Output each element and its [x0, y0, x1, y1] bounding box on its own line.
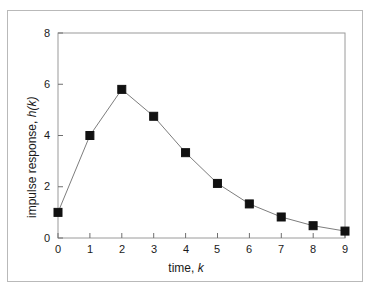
data-point	[118, 85, 126, 93]
data-point	[150, 112, 158, 120]
x-axis-title-text: time,	[168, 261, 194, 275]
data-point	[182, 149, 190, 157]
y-axis-title-variable: h(k)	[25, 97, 39, 118]
axes-rect	[58, 33, 345, 238]
data-point	[245, 200, 253, 208]
x-tick-label-6: 6	[239, 244, 259, 255]
x-tick-label-3: 3	[144, 244, 164, 255]
figure-canvas: 0 2 4 6 8 0 1 2 3 4 5 6 7 8 9 time, k im…	[0, 0, 372, 291]
data-point	[341, 227, 349, 235]
data-point	[277, 213, 285, 221]
y-axis-title-text: impulse response,	[25, 121, 39, 218]
axes-box	[58, 33, 345, 238]
x-tick-label-9: 9	[335, 244, 355, 255]
x-tick-label-2: 2	[112, 244, 132, 255]
x-tick-label-8: 8	[303, 244, 323, 255]
x-tick-label-4: 4	[176, 244, 196, 255]
data-point	[86, 132, 94, 140]
x-axis-title: time, k	[0, 262, 372, 274]
y-tick-label-8: 8	[34, 28, 50, 39]
x-tick-label-0: 0	[48, 244, 68, 255]
x-axis-title-variable: k	[198, 261, 204, 275]
data-point	[213, 179, 221, 187]
x-tick-label-5: 5	[207, 244, 227, 255]
y-axis-title: impulse response, h(k)	[26, 97, 38, 218]
y-tick-label-0: 0	[34, 233, 50, 244]
data-point	[54, 208, 62, 216]
x-tick-label-1: 1	[80, 244, 100, 255]
y-tick-label-6: 6	[34, 79, 50, 90]
x-tick-label-7: 7	[271, 244, 291, 255]
data-point	[309, 222, 317, 230]
